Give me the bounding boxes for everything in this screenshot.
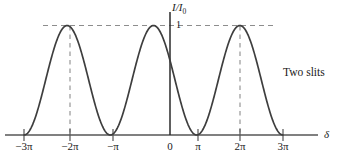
y-axis-label: I/I0: [172, 1, 186, 16]
x-tick-label-pi: π: [195, 140, 201, 152]
x-axis-label-delta: δ: [324, 128, 329, 140]
intensity-curve: [24, 26, 283, 136]
x-tick-label-zero: 0: [167, 140, 173, 152]
x-tick-label-minus-2pi: −2π: [61, 140, 78, 152]
x-tick-label-minus-pi: −π: [107, 140, 119, 152]
y-axis-label-main: I/I: [172, 1, 182, 13]
annotation-two-slits: Two slits: [283, 66, 325, 78]
y-axis-value-one: 1: [176, 19, 181, 30]
x-tick-label-3pi: 3π: [277, 140, 288, 152]
x-tick-label-minus-3pi: −3π: [15, 140, 32, 152]
two-slit-intensity-figure: I/I0 1 −3π −2π −π 0 π 2π 3π δ Two slits: [0, 0, 352, 166]
y-axis-label-subscript: 0: [182, 7, 186, 16]
x-tick-label-2pi: 2π: [234, 140, 245, 152]
